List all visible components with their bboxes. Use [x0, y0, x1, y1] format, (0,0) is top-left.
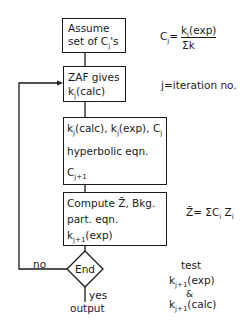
cj-formula-lhs: Cj= — [160, 30, 178, 42]
decision-label: End — [75, 263, 95, 275]
fraction-bar — [181, 37, 216, 38]
box1-line1: Assume — [68, 22, 109, 34]
box2-line1: ZAF gives — [68, 71, 119, 83]
box1-line2: set of Cj's — [68, 35, 119, 47]
box-assume-concentrations: Assume set of Cj's — [62, 18, 126, 53]
box4-line1: Compute Z̄, Bkg. — [67, 197, 155, 209]
box-hyperbolic-eqn: kj(calc), kj(exp), Cj hyperbolic eqn. Cj… — [63, 117, 167, 185]
test-note-line2: kj+1(exp) — [169, 274, 215, 286]
loop-back-line — [19, 83, 67, 269]
test-note-line3: kj+1(calc) — [169, 298, 216, 310]
box3-line3: Cj+1 — [67, 166, 87, 178]
box4-line2: part. eqn. — [67, 213, 118, 225]
cj-formula-numerator: ki(exp) — [181, 24, 216, 36]
test-note-line1: test — [181, 259, 201, 271]
box2-line2: kj(calc) — [68, 85, 105, 97]
box3-line1: kj(calc), kj(exp), Cj — [67, 122, 162, 134]
box4-line3: kj+1(exp) — [67, 229, 113, 241]
cj-formula-denominator: Σk — [182, 39, 195, 51]
box3-line2: hyperbolic eqn. — [67, 145, 148, 157]
box-zaf-gives: ZAF gives kj(calc) — [63, 66, 126, 102]
box-compute-z: Compute Z̄, Bkg. part. eqn. kj+1(exp) — [63, 192, 167, 246]
z-formula: Z̄= ΣCi Zi — [186, 206, 234, 218]
output-label: output — [70, 302, 105, 314]
iteration-note: j=iteration no. — [161, 79, 237, 91]
no-label: no — [33, 258, 46, 270]
yes-label: yes — [89, 289, 107, 301]
